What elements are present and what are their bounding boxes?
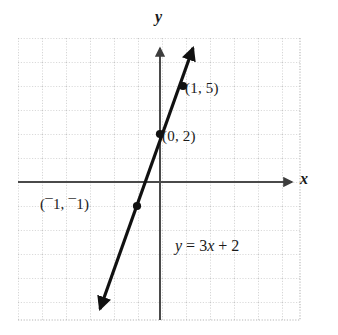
- data-point-marker: [133, 202, 141, 210]
- x-axis-label: x: [300, 170, 308, 188]
- equation-annotation: y = 3x + 2: [175, 237, 239, 255]
- coordinate-plane-svg: [0, 0, 338, 335]
- equation-slope-term: 3x: [199, 237, 214, 254]
- point-label-1-5: (1, 5): [185, 80, 219, 97]
- point-label-neg1-neg1: (¯1, ¯1): [40, 196, 89, 213]
- point-label-0-2: (0, 2): [162, 128, 196, 145]
- equation-intercept: 2: [231, 237, 239, 254]
- graph-figure: y x (1, 5) (0, 2) (¯1, ¯1) y = 3x + 2: [0, 0, 338, 335]
- equation-y: y: [175, 237, 182, 254]
- y-axis-label: y: [155, 8, 162, 26]
- equation-equals: =: [186, 237, 195, 254]
- equation-plus: +: [218, 237, 227, 254]
